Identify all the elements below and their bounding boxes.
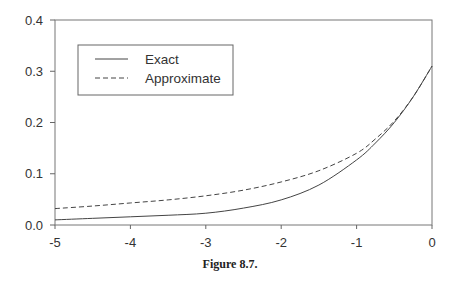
legend-label-exact: Exact bbox=[145, 52, 179, 67]
y-tick-label: 0.2 bbox=[25, 115, 43, 130]
x-axis-ticks: -5-4-3-2-10 bbox=[49, 225, 435, 250]
y-axis-ticks: 0.00.10.20.30.4 bbox=[25, 13, 55, 233]
chart: 0.00.10.20.30.4 -5-4-3-2-10 Exact Approx… bbox=[0, 0, 458, 283]
x-tick-label: 0 bbox=[428, 235, 435, 250]
x-tick-label: -2 bbox=[275, 235, 287, 250]
legend-label-approximate: Approximate bbox=[145, 71, 221, 86]
figure-caption: Figure 8.7. bbox=[203, 257, 258, 271]
x-tick-label: -5 bbox=[49, 235, 61, 250]
y-tick-label: 0.0 bbox=[25, 218, 43, 233]
y-tick-label: 0.3 bbox=[25, 64, 43, 79]
y-tick-label: 0.1 bbox=[25, 166, 43, 181]
x-tick-label: -4 bbox=[125, 235, 137, 250]
legend: Exact Approximate bbox=[78, 45, 233, 95]
x-tick-label: -1 bbox=[351, 235, 363, 250]
x-tick-label: -3 bbox=[200, 235, 212, 250]
y-tick-label: 0.4 bbox=[25, 13, 43, 28]
